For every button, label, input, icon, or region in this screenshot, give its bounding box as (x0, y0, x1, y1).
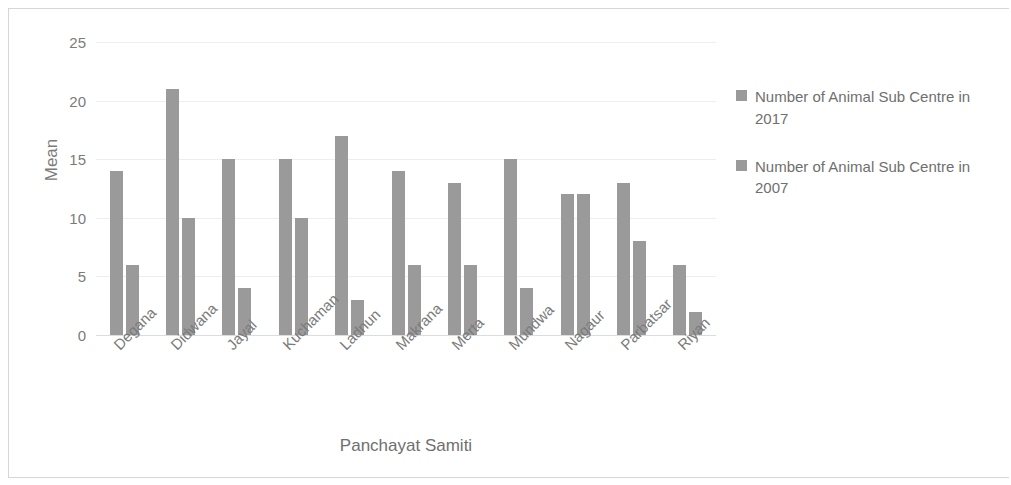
bar (279, 159, 292, 335)
y-tick-label-20: 20 (69, 92, 86, 109)
bar (166, 89, 179, 335)
legend-entry[interactable]: Number of Animal Sub Centre in 2007 (736, 156, 1004, 200)
legend-label: Number of Animal Sub Centre in 2017 (755, 86, 1004, 130)
bar (392, 171, 405, 335)
y-tick-label-25: 25 (69, 34, 86, 51)
gridline-25 (96, 42, 716, 43)
bar (504, 159, 517, 335)
plot-area (96, 42, 716, 335)
gridline-15 (96, 159, 716, 160)
chart-legend: Number of Animal Sub Centre in 2017Numbe… (736, 86, 1004, 225)
y-tick-label-5: 5 (78, 268, 86, 285)
y-tick-label-15: 15 (69, 151, 86, 168)
bar (110, 171, 123, 335)
y-tick-label-0: 0 (78, 327, 86, 344)
legend-swatch-2017 (736, 90, 747, 101)
y-axis-tick-labels: 0510152025 (40, 0, 86, 485)
bar (448, 183, 461, 335)
x-axis-title: Panchayat Samiti (96, 436, 716, 456)
legend-swatch-2007 (736, 160, 747, 171)
gridline-20 (96, 101, 716, 102)
bar (561, 194, 574, 335)
y-tick-label-10: 10 (69, 209, 86, 226)
legend-label: Number of Animal Sub Centre in 2007 (755, 156, 1004, 200)
bar (617, 183, 630, 335)
chart-figure: Mean 0510152025 DeganaDidwanaJayalKucham… (0, 0, 1011, 485)
bar (222, 159, 235, 335)
bar (673, 265, 686, 335)
legend-entry[interactable]: Number of Animal Sub Centre in 2017 (736, 86, 1004, 130)
